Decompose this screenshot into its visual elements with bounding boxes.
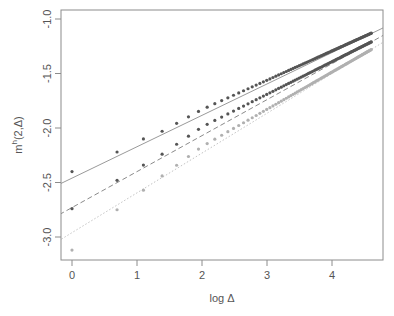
- data-point: [226, 96, 229, 99]
- data-point: [370, 40, 373, 43]
- data-point: [220, 99, 223, 102]
- data-point: [220, 115, 223, 118]
- y-tick-label: -3.0: [41, 228, 53, 247]
- data-point: [251, 116, 254, 119]
- x-tick-label: 4: [329, 269, 335, 281]
- y-tick-label: -2.0: [41, 119, 53, 138]
- data-point: [142, 163, 145, 166]
- data-point: [255, 83, 258, 86]
- x-axis-label: log Δ: [209, 292, 235, 304]
- data-point: [213, 138, 216, 141]
- data-point: [187, 155, 190, 158]
- data-point: [265, 93, 268, 96]
- x-axis: 01234: [69, 260, 335, 281]
- data-point: [265, 108, 268, 111]
- y-axis-label: mh(2,Δ): [10, 116, 24, 153]
- data-point: [206, 142, 209, 145]
- data-point: [237, 91, 240, 94]
- data-point: [161, 130, 164, 133]
- data-point: [262, 80, 265, 83]
- data-point: [70, 248, 73, 251]
- chart-container: 01234 -1.0-1.5-2.0-2.5-3.0 log Δ mh(2,Δ): [0, 0, 394, 316]
- data-point: [197, 148, 200, 151]
- data-point: [262, 110, 265, 113]
- data-point: [232, 127, 235, 130]
- data-point: [255, 114, 258, 117]
- data-point: [258, 96, 261, 99]
- data-point: [161, 174, 164, 177]
- data-point: [115, 150, 118, 153]
- data-point: [242, 89, 245, 92]
- data-point: [237, 107, 240, 110]
- y-tick-label: -1.5: [41, 64, 53, 83]
- data-point: [271, 104, 274, 107]
- data-point: [206, 106, 209, 109]
- data-point: [251, 100, 254, 103]
- x-tick-label: 3: [264, 269, 270, 281]
- data-point: [175, 122, 178, 125]
- y-tick-label: -2.5: [41, 173, 53, 192]
- data-point: [226, 130, 229, 133]
- data-point: [268, 77, 271, 80]
- data-point: [242, 121, 245, 124]
- data-point: [232, 109, 235, 112]
- data-point: [220, 134, 223, 137]
- data-point: [142, 137, 145, 140]
- data-point: [255, 98, 258, 101]
- data-point: [262, 94, 265, 97]
- data-point: [115, 208, 118, 211]
- data-point: [246, 87, 249, 90]
- data-point: [258, 112, 261, 115]
- data-point: [258, 82, 261, 85]
- data-point: [70, 207, 73, 210]
- data-point: [213, 102, 216, 105]
- data-point: [175, 143, 178, 146]
- data-point: [226, 112, 229, 115]
- y-axis: -1.0-1.5-2.0-2.5-3.0: [41, 10, 61, 247]
- data-point: [246, 102, 249, 105]
- data-point: [197, 128, 200, 131]
- data-point: [246, 119, 249, 122]
- y-tick-label: -1.0: [41, 10, 53, 29]
- data-point: [251, 85, 254, 88]
- data-point: [370, 48, 373, 51]
- data-point: [265, 79, 268, 82]
- data-point: [213, 119, 216, 122]
- data-point: [370, 32, 373, 35]
- data-point: [237, 124, 240, 127]
- data-point: [268, 106, 271, 109]
- data-point: [274, 75, 277, 78]
- data-point: [271, 76, 274, 79]
- data-point: [175, 164, 178, 167]
- data-point: [187, 135, 190, 138]
- data-point: [271, 90, 274, 93]
- x-tick-label: 2: [199, 269, 205, 281]
- data-point: [242, 104, 245, 107]
- data-points: [70, 32, 373, 252]
- x-tick-label: 1: [134, 269, 140, 281]
- data-point: [206, 123, 209, 126]
- data-point: [232, 94, 235, 97]
- data-point: [70, 170, 73, 173]
- data-point: [197, 110, 200, 113]
- data-point: [115, 179, 118, 182]
- data-point: [268, 91, 271, 94]
- data-point: [161, 153, 164, 156]
- data-point: [187, 115, 190, 118]
- data-point: [274, 103, 277, 106]
- x-tick-label: 0: [69, 269, 75, 281]
- data-point: [142, 189, 145, 192]
- scatter-plot: 01234 -1.0-1.5-2.0-2.5-3.0 log Δ mh(2,Δ): [0, 0, 394, 316]
- data-point: [274, 88, 277, 91]
